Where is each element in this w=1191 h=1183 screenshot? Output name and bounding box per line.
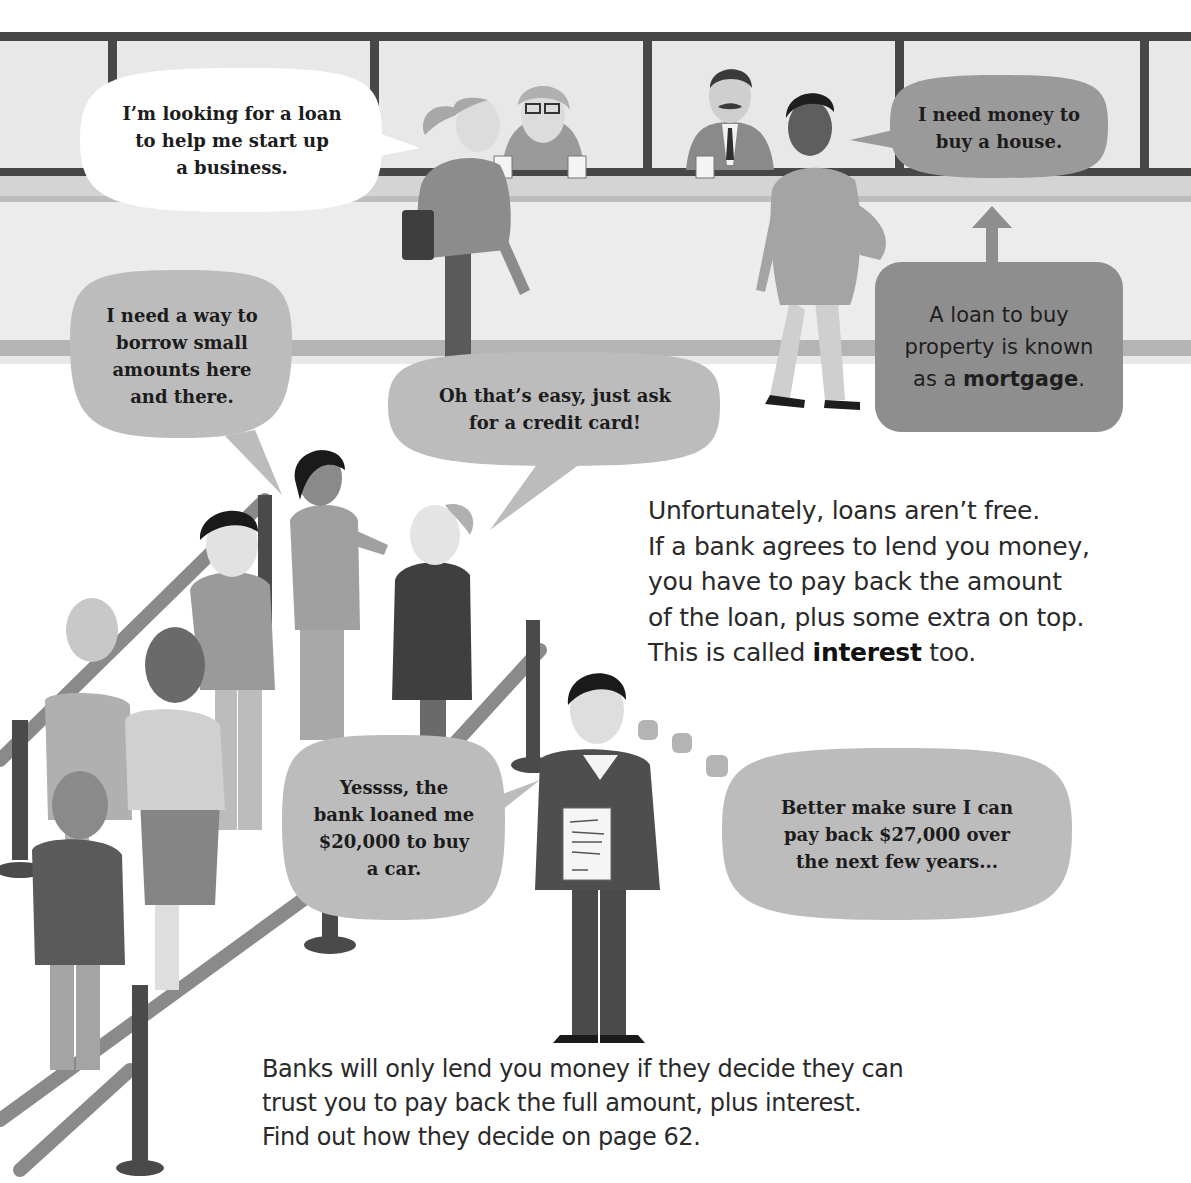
speech-bubble-house: I need money to buy a house. [893,80,1105,175]
speech-bubble-borrow-small: I need a way to borrow small amounts her… [74,278,290,434]
speech-bubble-credit-card: Oh that’s easy, just ask for a credit ca… [392,356,718,462]
speech-bubble-business-loan: I’m looking for a loan to help me start … [84,72,380,208]
bubble-text: Oh that’s easy, just ask for a credit ca… [439,382,671,436]
term-mortgage: mortgage [963,367,1078,391]
customer-woman-talking [290,450,388,740]
interest-text-suffix: too. [922,638,976,667]
bubble-text: I need money to buy a house. [918,101,1080,155]
trust-explanation: Banks will only lend you money if they d… [262,1052,903,1154]
bubble-text: I need a way to borrow small amounts her… [106,302,258,410]
thought-bubble-repayment: Better make sure I can pay back $27,000 … [726,752,1068,916]
customer-older-man [392,504,473,750]
speech-bubble-car-loan: Yessss, the bank loaned me $20,000 to bu… [286,740,502,916]
bubble-text: Yessss, the bank loaned me $20,000 to bu… [314,774,474,882]
callout-mortgage: A loan to buy property is known as a mor… [878,266,1120,428]
interest-explanation: Unfortunately, loans aren’t free. If a b… [648,493,1090,671]
loan-document [563,808,611,880]
thought-dots [638,720,728,777]
term-interest: interest [813,638,922,667]
bubble-text: I’m looking for a loan to help me start … [122,100,341,181]
callout-text-suffix: . [1078,367,1085,391]
callout-text: A loan to buy property is known as a mor… [905,299,1094,395]
bubble-text: Better make sure I can pay back $27,000 … [781,794,1013,875]
